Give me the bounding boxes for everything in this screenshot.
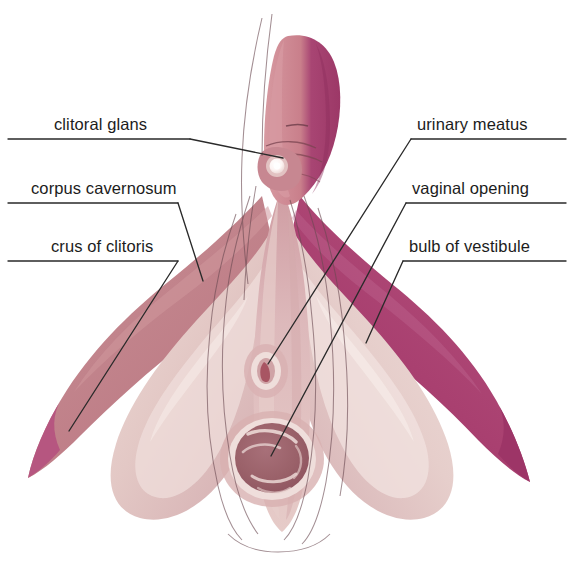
label-clitoral-glans: clitoral glans xyxy=(54,116,147,133)
anatomy-figure: clitoral glans corpus cavernosum crus of… xyxy=(0,0,574,581)
label-urinary-meatus: urinary meatus xyxy=(417,116,528,133)
label-corpus-cavernosum: corpus cavernosum xyxy=(31,180,177,197)
clitoral-glans xyxy=(266,155,288,177)
label-crus-of-clitoris: crus of clitoris xyxy=(51,238,153,255)
label-bulb-of-vestibule: bulb of vestibule xyxy=(409,238,530,255)
urinary-meatus xyxy=(244,344,288,398)
anatomy-illustration xyxy=(0,0,574,581)
vaginal-opening xyxy=(220,411,324,507)
label-vaginal-opening: vaginal opening xyxy=(412,180,529,197)
